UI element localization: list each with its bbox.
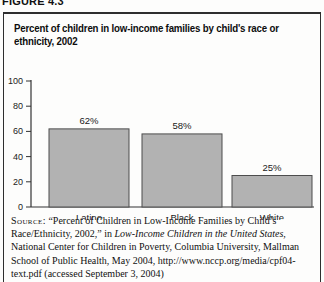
- source-text-after-italic: National Center for Children in Poverty,…: [11, 241, 299, 278]
- figure-page: { "figure": { "label": "FIGURE 4.3" }, "…: [0, 0, 324, 282]
- figure-number-label: FIGURE 4.3: [2, 0, 64, 7]
- y-tick-label: 20: [13, 177, 23, 187]
- chart-title-line-1: Percent of children in low-income famili…: [14, 22, 283, 35]
- bar-value-label-black: 58%: [172, 120, 192, 131]
- chart-title-line-2: ethnicity, 2002: [14, 35, 283, 48]
- bar-black: [142, 134, 222, 207]
- figure-box: Percent of children in low-income famili…: [3, 12, 321, 282]
- chart-title: Percent of children in low-income famili…: [14, 22, 320, 48]
- y-tick-label: 60: [13, 126, 23, 136]
- y-tick-label: 0: [18, 202, 23, 212]
- y-tick-label: 80: [13, 101, 23, 111]
- bar-value-label-white: 25%: [262, 162, 282, 173]
- bar-chart: 02040608010062%Latino58%Black25%White: [4, 62, 322, 220]
- y-tick-label: 100: [8, 76, 23, 86]
- bar-value-label-latino: 62%: [79, 115, 99, 126]
- source-note: Source: “Percent of Children in Low-Inco…: [11, 214, 315, 280]
- source-italic-title: Low-Income Children in the United States…: [115, 228, 286, 239]
- y-tick-label: 40: [13, 152, 23, 162]
- source-label: Source:: [11, 215, 46, 226]
- bar-white: [232, 176, 312, 208]
- bar-latino: [49, 129, 129, 207]
